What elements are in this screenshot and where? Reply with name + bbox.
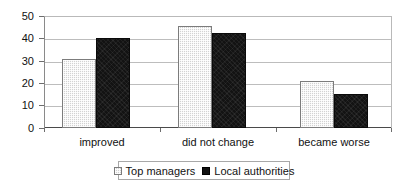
xtick-mark-1	[160, 128, 161, 132]
legend-entry-local-authorities: Local authorities	[202, 165, 294, 177]
xtick-mark-0	[44, 128, 45, 132]
bar-top-managers-became-worse	[300, 81, 334, 128]
legend-entry-top-managers: Top managers	[114, 165, 196, 177]
ytick-label-50: 50	[0, 11, 34, 22]
bars-layer	[44, 16, 392, 128]
ytick-label-20: 20	[0, 78, 34, 89]
bar-local-authorities-improved	[96, 38, 130, 128]
bar-chart: 50 40 30 20 10 0 improved did not change…	[0, 0, 406, 188]
category-label-improved: improved	[44, 136, 160, 148]
category-label-became-worse: became worse	[276, 136, 392, 148]
legend-label-local-authorities: Local authorities	[214, 165, 294, 177]
bar-local-authorities-did-not-change	[212, 33, 246, 128]
bar-top-managers-did-not-change	[178, 26, 212, 128]
chart-legend: Top managers Local authorities	[118, 161, 290, 180]
legend-swatch-icon-local-authorities	[202, 167, 210, 175]
category-label-did-not-change: did not change	[160, 136, 276, 148]
legend-swatch-icon-top-managers	[114, 167, 122, 175]
ytick-label-10: 10	[0, 100, 34, 111]
xtick-mark-3	[391, 128, 392, 132]
bar-top-managers-improved	[62, 59, 96, 128]
ytick-label-30: 30	[0, 56, 34, 67]
xtick-mark-2	[276, 128, 277, 132]
ytick-label-40: 40	[0, 33, 34, 44]
bar-local-authorities-became-worse	[334, 94, 368, 128]
legend-label-top-managers: Top managers	[126, 165, 196, 177]
ytick-label-0: 0	[0, 123, 34, 134]
